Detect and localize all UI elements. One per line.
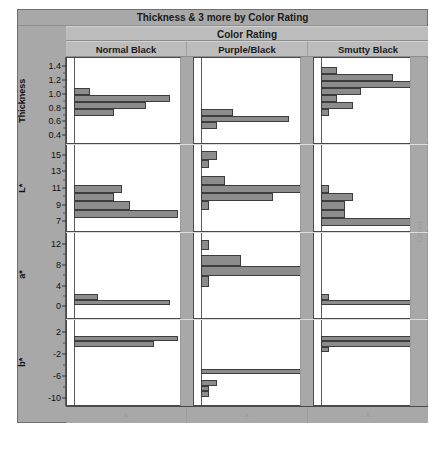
histogram-bar (74, 193, 114, 201)
bottom-axis-strip: x x x (66, 406, 428, 423)
y-tick-label: 8 (56, 260, 61, 270)
bottom-tick-normal-black: x (66, 407, 187, 423)
histogram-bar (201, 266, 302, 276)
y-tick-label: 7 (56, 216, 61, 226)
histogram-panel (66, 57, 181, 144)
trellis-cell (66, 57, 187, 144)
histogram-bar (201, 109, 233, 116)
histogram-bar (201, 185, 302, 193)
histogram-bar (201, 176, 225, 184)
y-tick-mark-minor (63, 128, 66, 129)
histogram-panel (66, 319, 181, 406)
y-axis-bstar: 2-2-6-10b* (18, 319, 66, 406)
y-tick-mark (62, 306, 66, 307)
y-tick-mark (62, 65, 66, 66)
y-tick-mark (62, 135, 66, 136)
histogram-panel (66, 232, 181, 319)
histogram-bar (74, 95, 170, 102)
histogram-bar (74, 210, 178, 218)
histogram-bar (321, 102, 353, 109)
band-separator (66, 232, 428, 233)
y-tick-label: 2 (56, 327, 61, 337)
histogram-bar (321, 201, 345, 209)
histogram-panel (193, 57, 302, 144)
y-tick-mark (62, 221, 66, 222)
histogram-bar (201, 391, 209, 397)
y-tick-mark (62, 171, 66, 172)
y-tick-mark-minor (63, 295, 66, 296)
trellis-cell (187, 57, 308, 144)
trellis-cell (187, 232, 308, 319)
y-tick-label: 1.0 (48, 89, 61, 99)
report-frame: Thickness & 3 more by Color Rating Color… (17, 9, 428, 423)
y-axis-title: L* (17, 160, 27, 216)
y-axis-title: Thickness (17, 73, 27, 129)
panel-baseline (201, 58, 202, 143)
y-tick-mark (62, 354, 66, 355)
histogram-bar (321, 109, 329, 116)
histogram-bar (321, 218, 417, 226)
histogram-bar (74, 341, 154, 347)
trellis-cell (187, 319, 308, 406)
y-tick-mark-minor (63, 114, 66, 115)
y-tick-label: 9 (56, 200, 61, 210)
y-tick-mark (62, 243, 66, 244)
y-tick-mark (62, 121, 66, 122)
trellis-cell (66, 144, 187, 231)
histogram-panel (193, 319, 302, 406)
y-tick-label: -2 (53, 349, 61, 359)
report-title: Thickness & 3 more by Color Rating (18, 10, 427, 26)
histogram-bar (74, 88, 90, 95)
trellis-cell (187, 144, 308, 231)
column-header-row: Normal Black Purple/Black Smutty Black (66, 41, 428, 57)
histogram-bar (321, 347, 329, 353)
y-tick-mark-minor (63, 179, 66, 180)
histogram-bar (201, 122, 217, 129)
bottom-tick-smutty-black: x (308, 407, 428, 423)
histogram-bar (201, 240, 209, 250)
y-tick-mark (62, 376, 66, 377)
histogram-bar (201, 369, 302, 375)
histogram-bar (201, 255, 241, 265)
histogram-bar (321, 185, 329, 193)
group-header: Color Rating (66, 26, 428, 41)
histogram-bar (201, 276, 209, 286)
histogram-panel (66, 144, 181, 231)
y-tick-label: 0.6 (48, 116, 61, 126)
y-tick-mark (62, 264, 66, 265)
trellis-row-bstar (66, 319, 428, 406)
y-tick-mark-minor (63, 100, 66, 101)
histogram-bar (74, 102, 146, 109)
trellis-row-thickness (66, 57, 428, 144)
histogram-bar (74, 185, 122, 193)
histogram-bar (321, 67, 337, 74)
y-axis-title: a* (17, 247, 27, 303)
y-tick-mark (62, 331, 66, 332)
y-tick-mark-minor (63, 86, 66, 87)
y-tick-mark (62, 154, 66, 155)
bottom-tick-purple-black: x (187, 407, 308, 423)
histogram-bar (201, 151, 217, 159)
histogram-bar (321, 210, 345, 218)
y-tick-mark (62, 204, 66, 205)
trellis-row-lstar (66, 144, 428, 231)
y-tick-mark (62, 107, 66, 108)
y-axis-thickness: 1.41.21.00.80.60.4Thickness (18, 57, 66, 144)
y-tick-label: 0 (56, 301, 61, 311)
y-tick-mark (62, 79, 66, 80)
y-tick-label: 1.2 (48, 75, 61, 85)
histogram-bar (74, 201, 130, 209)
y-tick-mark-minor (63, 387, 66, 388)
column-header-normal-black: Normal Black (66, 41, 187, 57)
y-axis-astar: 12840a* (18, 232, 66, 319)
y-tick-mark-minor (63, 254, 66, 255)
histogram-bar (74, 109, 114, 116)
y-tick-mark-minor (63, 275, 66, 276)
trellis-cell (66, 319, 187, 406)
histogram-panel (193, 144, 302, 231)
y-tick-mark (62, 398, 66, 399)
histogram-bar (201, 193, 273, 201)
band-separator (66, 319, 428, 320)
y-tick-label: 13 (51, 166, 61, 176)
panel-baseline (74, 320, 75, 405)
